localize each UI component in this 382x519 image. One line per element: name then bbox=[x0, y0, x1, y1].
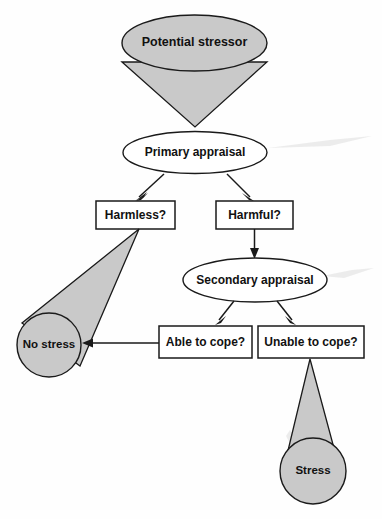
node-able-to-cope[interactable]: Able to cope? bbox=[159, 326, 252, 358]
node-unable-to-cope[interactable]: Unable to cope? bbox=[258, 326, 364, 358]
node-harmful[interactable]: Harmful? bbox=[216, 201, 293, 229]
node-no-stress[interactable]: No stress bbox=[17, 313, 81, 377]
edge-primary-to-harmful bbox=[227, 174, 254, 201]
node-stress[interactable]: Stress bbox=[280, 438, 346, 504]
flowchart-canvas: Potential stressor Primary appraisal Har… bbox=[0, 0, 382, 519]
node-harmless[interactable]: Harmless? bbox=[96, 201, 175, 229]
potential-stressor-label: Potential stressor bbox=[142, 35, 248, 49]
harmless-label: Harmless? bbox=[105, 208, 166, 222]
node-secondary-appraisal[interactable]: Secondary appraisal bbox=[183, 258, 327, 302]
node-potential-stressor[interactable]: Potential stressor bbox=[122, 15, 267, 127]
able-to-cope-label: Able to cope? bbox=[166, 335, 245, 349]
stress-appraisal-diagram: Potential stressor Primary appraisal Har… bbox=[0, 0, 382, 519]
stress-label: Stress bbox=[295, 464, 330, 476]
edge-secondary-to-unable bbox=[277, 301, 296, 325]
edge-primary-to-harmless bbox=[135, 174, 164, 201]
secondary-appraisal-label: Secondary appraisal bbox=[196, 273, 313, 287]
unable-to-cope-label: Unable to cope? bbox=[264, 335, 357, 349]
edge-able-to-no-stress bbox=[82, 339, 159, 348]
no-stress-label: No stress bbox=[23, 338, 75, 350]
harmful-label: Harmful? bbox=[228, 208, 281, 222]
potential-stressor-cone-body bbox=[122, 62, 267, 127]
node-primary-appraisal[interactable]: Primary appraisal bbox=[123, 132, 267, 174]
edge-harmful-to-secondary bbox=[250, 229, 259, 259]
primary-appraisal-label: Primary appraisal bbox=[145, 145, 246, 159]
edge-secondary-to-able bbox=[215, 301, 234, 325]
